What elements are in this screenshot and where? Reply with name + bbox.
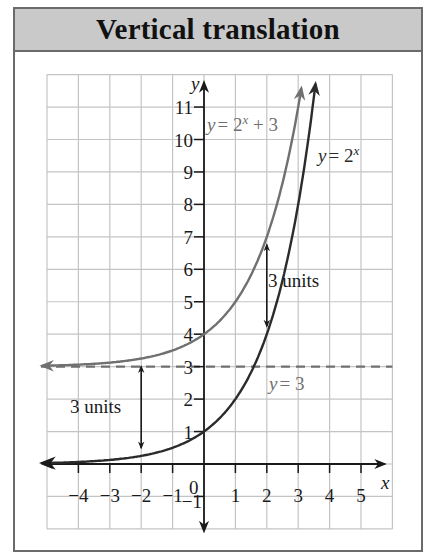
y-tick-label: 5: [184, 292, 194, 313]
y-tick-label: 2: [184, 389, 194, 410]
x-tick-label: 1: [231, 485, 241, 506]
label-shifted-curve: y= 2x + 3: [205, 112, 278, 135]
label-asymptote: y= 3: [267, 373, 304, 394]
y-tick-label: 11: [175, 97, 193, 118]
plot-area: −4−3−2−112345−11234567891011 y x 0 y= 2x…: [0, 0, 429, 557]
label-base-curve: y= 2x: [316, 143, 359, 166]
annotation-right-3-units: 3 units: [268, 270, 319, 291]
x-tick-label: −4: [68, 485, 89, 506]
y-tick-label: 9: [184, 162, 194, 183]
origin-label: 0: [189, 477, 199, 498]
y-tick-label: 8: [184, 194, 194, 215]
y-tick-label: 7: [184, 227, 194, 248]
x-axis-label: x: [380, 472, 390, 493]
y-tick-label: 4: [184, 324, 194, 345]
annotation-left-3-units: 3 units: [70, 396, 121, 417]
y-tick-label: 10: [174, 130, 193, 151]
x-tick-label: −3: [100, 485, 120, 506]
x-tick-label: 4: [325, 485, 335, 506]
y-tick-label: 1: [184, 422, 194, 443]
y-axis-label: y: [189, 73, 200, 94]
x-tick-label: −2: [131, 485, 151, 506]
x-tick-label: 2: [262, 485, 272, 506]
y-tick-label: 6: [184, 259, 194, 280]
x-tick-label: −1: [162, 485, 182, 506]
y-tick-label: 3: [184, 357, 194, 378]
x-tick-label: 3: [293, 485, 303, 506]
x-tick-label: 5: [356, 485, 366, 506]
